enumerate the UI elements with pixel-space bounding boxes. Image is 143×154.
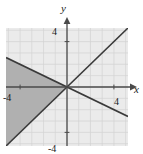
x-axis-label: x <box>133 83 139 95</box>
x-axis-positive-tick-label: 4 <box>114 96 119 107</box>
y-axis-positive-tick-label: 4 <box>52 26 57 37</box>
x-axis-negative-tick-label: -4 <box>3 92 11 103</box>
coordinate-plane-svg: -4 4 4 -4 y x <box>0 0 143 154</box>
graph-figure: -4 4 4 -4 y x <box>0 0 143 154</box>
y-axis-negative-tick-label: -4 <box>48 143 56 154</box>
y-axis-label: y <box>60 2 66 14</box>
